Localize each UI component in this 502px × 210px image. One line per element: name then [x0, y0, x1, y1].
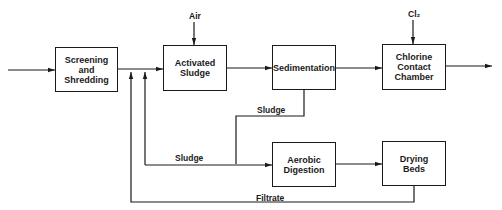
- node-label: Shredding: [64, 75, 109, 85]
- node-label: Chlorine: [394, 52, 433, 62]
- sludge-lower-label: Sludge: [175, 153, 203, 163]
- air-input-label: Air: [189, 11, 201, 21]
- node-drying-beds: Drying Beds: [382, 141, 446, 186]
- node-screening-and-shredding: Screening and Shredding: [55, 47, 118, 92]
- node-activated-sludge: Activated Sludge: [163, 45, 227, 91]
- node-aerobic-digestion: Aerobic Digestion: [272, 142, 336, 187]
- node-chlorine-contact-chamber: Chlorine Contact Chamber: [382, 44, 446, 90]
- node-label: Beds: [400, 164, 429, 174]
- node-label: Drying: [400, 154, 429, 164]
- cl2-input-label: Cl₂: [408, 9, 420, 19]
- node-label: Sedimentation: [273, 63, 335, 73]
- node-sedimentation: Sedimentation: [272, 45, 336, 90]
- node-label: Activated: [175, 58, 216, 68]
- node-label: Screening: [64, 55, 109, 65]
- node-label: and: [64, 65, 109, 75]
- node-label: Aerobic: [283, 155, 324, 165]
- node-label: Sludge: [175, 68, 216, 78]
- node-label: Digestion: [283, 165, 324, 175]
- node-label: Contact: [394, 62, 433, 72]
- node-label: Chamber: [394, 72, 433, 82]
- sludge-upper-label: Sludge: [257, 105, 285, 115]
- filtrate-label: Filtrate: [256, 193, 284, 203]
